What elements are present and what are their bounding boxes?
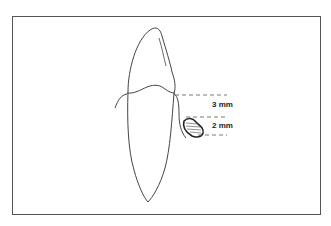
tooth-crown: [128, 28, 175, 93]
tooth-diagram: [0, 0, 331, 226]
gingiva-left: [115, 94, 127, 108]
cej-line: [127, 85, 175, 93]
measurement-label-2mm: 2 mm: [212, 121, 233, 130]
measurement-label-3mm: 3 mm: [212, 100, 233, 109]
calculus-deposit: [184, 118, 204, 137]
tooth-root: [128, 92, 174, 202]
crown-ridge-line: [159, 38, 166, 66]
gingiva-right: [174, 94, 186, 138]
